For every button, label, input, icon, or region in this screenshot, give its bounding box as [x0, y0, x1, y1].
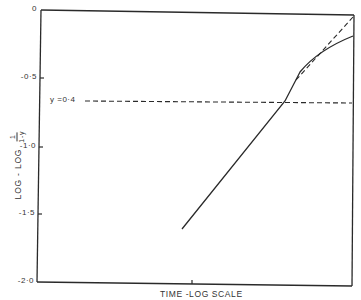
ytick-neg0-5: -0·5 [7, 72, 37, 81]
frame-right [352, 15, 354, 286]
y-axis-label: LOG - LOG 1 1-y [9, 131, 26, 200]
y-axis-label-text: LOG - LOG [12, 149, 22, 200]
series-observed-curve [182, 36, 353, 229]
ytick-0: 0 [7, 4, 37, 13]
series-linear-extrapolation [296, 17, 353, 80]
ytick-neg2-0: -2·0 [4, 276, 34, 285]
reference-line-y04 [85, 101, 352, 103]
chart-plot [0, 0, 361, 300]
annotation-y04: y =0·4 [50, 95, 75, 104]
fraction-numerator: 1 [9, 132, 18, 141]
x-axis-label: TIME -LOG SCALE [160, 289, 243, 299]
plot-frame [37, 10, 354, 286]
x-axis [37, 282, 352, 286]
y-axis-label-wrap: LOG - LOG 1 1-y [2, 110, 32, 220]
fraction-denominator: 1-y [18, 131, 26, 143]
frame-top [41, 10, 354, 15]
y-axis-label-fraction: 1 1-y [9, 131, 26, 143]
y-axis [37, 10, 41, 282]
